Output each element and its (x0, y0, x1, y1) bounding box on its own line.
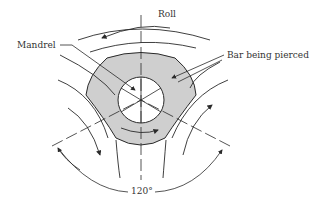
rotary-piercing-diagram: Roll Mandrel Bar being pierced 120° (0, 0, 316, 204)
top-roll (78, 26, 210, 52)
mandrel-label: Mandrel (17, 41, 56, 50)
angle-label: 120° (129, 187, 155, 196)
diagram-graphic (0, 0, 316, 204)
roll-label: Roll (158, 10, 176, 19)
bar-label: Bar being pierced (227, 51, 309, 60)
